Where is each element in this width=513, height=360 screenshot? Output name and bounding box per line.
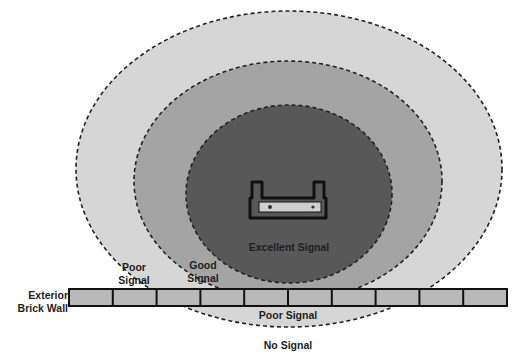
- wall-label-line1: Exterior: [8, 289, 68, 302]
- poor-signal-line1: Poor: [112, 261, 156, 274]
- poor-signal-label: Poor Signal: [112, 261, 156, 287]
- poor-signal-line2: Signal: [112, 274, 156, 287]
- good-signal-line1: Good: [178, 259, 228, 272]
- no-signal-label: No Signal: [248, 339, 328, 352]
- poor-signal-outside-label: Poor Signal: [248, 309, 328, 322]
- excellent-signal-label: Excellent Signal: [229, 241, 349, 254]
- wall-label: Exterior Brick Wall: [8, 289, 68, 315]
- exterior-brick-wall: [69, 289, 507, 306]
- good-signal-label: Good Signal: [178, 259, 228, 285]
- excellent-signal-zone: [186, 105, 392, 283]
- good-signal-line2: Signal: [178, 272, 228, 285]
- wall-label-line2: Brick Wall: [8, 302, 68, 315]
- coverage-diagram: [0, 0, 513, 360]
